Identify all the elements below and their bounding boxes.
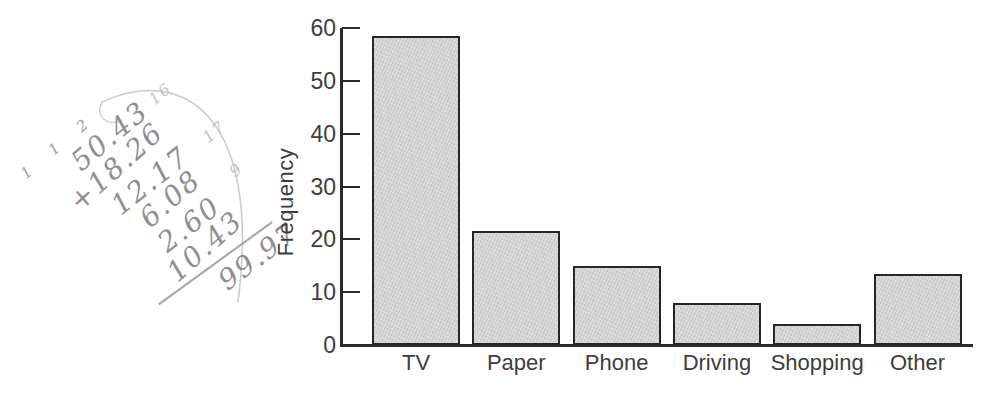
y-tick-mark [342, 291, 360, 293]
category-label-other: Other [863, 352, 973, 374]
bar-paper [472, 231, 560, 345]
category-label-tv: TV [361, 352, 471, 374]
category-label-shopping: Shopping [762, 352, 872, 374]
y-tick-mark [342, 238, 360, 240]
bar-other [874, 274, 962, 345]
category-label-paper: Paper [461, 352, 571, 374]
bar-tv [372, 36, 460, 345]
y-tick-mark [342, 27, 360, 29]
y-tick-label: 20 [290, 228, 336, 251]
y-tick-label: 0 [290, 334, 336, 357]
y-tick-mark [342, 80, 360, 82]
category-label-phone: Phone [562, 352, 672, 374]
bar-driving [673, 303, 761, 345]
category-label-driving: Driving [662, 352, 772, 374]
handwritten-calculation: 16 17 9 1 1 2 50.43+18.2612.176.082.6010… [0, 58, 320, 393]
scanned-figure: 16 17 9 1 1 2 50.43+18.2612.176.082.6010… [0, 0, 998, 393]
y-tick-mark [342, 133, 360, 135]
bar-phone [573, 266, 661, 345]
y-tick-mark [342, 186, 360, 188]
bar-shopping [773, 324, 861, 345]
y-tick-label: 30 [290, 176, 336, 199]
y-tick-label: 40 [290, 123, 336, 146]
y-tick-label: 50 [290, 70, 336, 93]
y-tick-label: 10 [290, 281, 336, 304]
y-tick-label: 60 [290, 17, 336, 40]
